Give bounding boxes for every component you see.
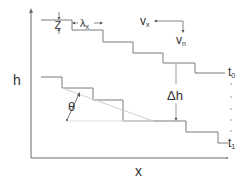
velocity-vectors: vx vn xyxy=(140,14,186,47)
angle-arrow-tail-dot-icon xyxy=(66,119,68,121)
velocity-x-label: vx xyxy=(140,14,150,28)
staircase-t0 xyxy=(41,20,225,73)
step-height-label: Z xyxy=(55,19,62,31)
time-start-label: t0 xyxy=(228,65,235,79)
y-axis-label: h xyxy=(13,72,21,88)
lambda-right-arrow-icon xyxy=(100,22,103,25)
time-end-label: t1 xyxy=(228,136,235,150)
y-axis-arrow-icon xyxy=(29,8,33,13)
slope-line xyxy=(62,88,153,121)
step-spacing-label: λx xyxy=(80,17,90,30)
velocity-n-label: vn xyxy=(176,33,186,47)
vx-arrow-icon xyxy=(154,20,157,23)
angle-arrowhead-icon xyxy=(77,92,80,97)
step-flow-diagram: θ Z λx vx vn Δh t0 xyxy=(0,0,251,187)
angle-label: θ xyxy=(68,99,75,114)
time-progression-dots xyxy=(230,83,231,131)
step-height-marker: Z xyxy=(55,12,62,34)
x-axis-label: x xyxy=(135,163,142,179)
step-spacing-marker: λx xyxy=(72,17,103,30)
delta-h-marker: Δh xyxy=(167,63,183,121)
delta-h-label: Δh xyxy=(167,88,183,103)
x-axis-end-dot-icon xyxy=(226,157,228,159)
